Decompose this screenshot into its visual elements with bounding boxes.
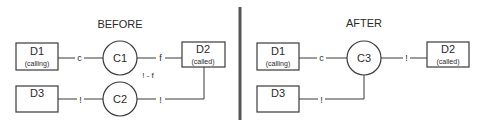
node-d2-name: D2 — [196, 43, 210, 55]
edge-c2-d2-b — [165, 67, 204, 99]
edge-d3-c3-right — [325, 75, 364, 99]
edge-label-c1-d2: f — [159, 53, 162, 63]
node-d2-sub: (called) — [437, 58, 460, 66]
node-d2-sub: (called) — [192, 58, 215, 66]
node-c2-name: C2 — [113, 93, 127, 105]
node-d1-name: D1 — [30, 45, 44, 57]
node-d2-name: D2 — [441, 43, 455, 55]
after-panel: AFTER D1 (calling) C3 D2 (called) D3 c !… — [257, 17, 469, 112]
node-d3-name: D3 — [30, 87, 44, 99]
node-d3-name: D3 — [271, 87, 285, 99]
edge-label-c1-extra: ! - f — [142, 71, 154, 80]
edge-label-d3-c2: ! — [79, 95, 82, 105]
node-d1-name: D1 — [271, 45, 285, 57]
node-d1-sub: (calling) — [25, 60, 50, 68]
edge-label-d1-c3: c — [319, 53, 324, 63]
node-d1-sub: (calling) — [266, 60, 291, 68]
after-title: AFTER — [346, 17, 382, 29]
edge-label-d1-c1: c — [77, 53, 82, 63]
edge-label-d3-c3: ! — [320, 95, 323, 105]
before-title: BEFORE — [97, 18, 142, 30]
before-panel: BEFORE D1 (calling) C1 D2 (called) D3 C2… — [16, 18, 225, 116]
edge-label-c3-d2: ! — [405, 53, 408, 63]
diagram-canvas: BEFORE D1 (calling) C1 D2 (called) D3 C2… — [0, 0, 482, 127]
node-c3-name: C3 — [357, 52, 371, 64]
edge-label-c2-d2: ! — [159, 95, 162, 105]
node-c1-name: C1 — [113, 52, 127, 64]
